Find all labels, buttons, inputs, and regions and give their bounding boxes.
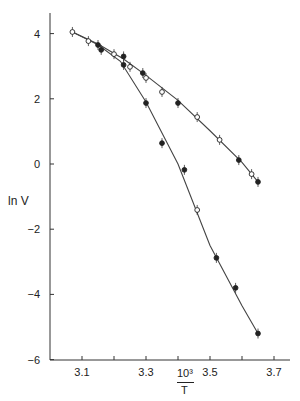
filled-data-point bbox=[140, 71, 145, 76]
filled-data-point bbox=[96, 43, 101, 48]
x-axis-label-denominator: T bbox=[181, 384, 188, 396]
open-data-point bbox=[249, 172, 254, 177]
y-tick-label: 2 bbox=[34, 93, 40, 105]
filled-data-point bbox=[214, 255, 219, 260]
x-tick-label: 3.7 bbox=[266, 366, 281, 378]
filled-data-point bbox=[256, 331, 261, 336]
open-data-point bbox=[128, 64, 133, 69]
open-data-point bbox=[112, 52, 117, 57]
filled-data-point bbox=[121, 54, 126, 59]
open-data-point bbox=[86, 39, 91, 44]
filled-data-point bbox=[144, 101, 149, 106]
open-data-point bbox=[217, 137, 222, 142]
y-tick-label: 0 bbox=[34, 158, 40, 170]
open-data-point bbox=[195, 208, 200, 213]
open-data-point bbox=[160, 90, 165, 95]
filled-data-point bbox=[176, 101, 181, 106]
x-tick-label: 3.5 bbox=[202, 366, 217, 378]
filled-data-point bbox=[182, 167, 187, 172]
open-data-point bbox=[70, 30, 75, 35]
filled-data-point bbox=[160, 141, 165, 146]
y-tick-label: −4 bbox=[27, 288, 40, 300]
y-axis-label: ln V bbox=[8, 194, 29, 208]
filled-data-point bbox=[121, 62, 126, 67]
fit-curve bbox=[72, 32, 258, 182]
x-axis-label-numerator: 10³ bbox=[177, 367, 193, 379]
open-data-point bbox=[144, 76, 149, 81]
x-tick-label: 3.1 bbox=[74, 366, 89, 378]
y-tick-label: 4 bbox=[34, 28, 40, 40]
x-tick-label: 3.3 bbox=[138, 366, 153, 378]
y-tick-label: −6 bbox=[27, 354, 40, 366]
chart: 420−2−4−63.13.33.53.7 bbox=[0, 0, 300, 401]
y-tick-label: −2 bbox=[27, 223, 40, 235]
filled-data-point bbox=[236, 158, 241, 163]
filled-data-point bbox=[256, 180, 261, 185]
fit-curve bbox=[72, 32, 258, 334]
open-data-point bbox=[195, 115, 200, 120]
x-axis-label-fraction-bar bbox=[177, 382, 194, 383]
filled-data-point bbox=[99, 48, 104, 53]
filled-data-point bbox=[233, 285, 238, 290]
